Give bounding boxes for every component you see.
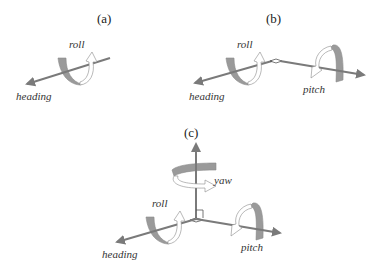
pitch-ribbon-icon	[250, 203, 263, 240]
pitch-label: pitch	[302, 83, 325, 95]
heading-label: heading	[189, 90, 225, 102]
panel-b: (b) roll heading pitch	[189, 11, 364, 102]
roll-label: roll	[69, 38, 85, 50]
roll-arrow-icon	[248, 52, 265, 85]
right-angle-marker	[196, 210, 203, 218]
yaw-arrow-icon	[173, 176, 216, 192]
heading-label: heading	[16, 90, 52, 102]
rotation-axes-diagram: (a) roll heading (b) roll heading pitch …	[0, 0, 384, 263]
roll-arrow-icon	[80, 52, 97, 85]
yaw-label: yaw	[213, 174, 232, 186]
pitch-label: pitch	[240, 241, 263, 253]
panel-c: (c) yaw roll heading pitch	[102, 125, 280, 260]
panel-b-label: (b)	[266, 11, 281, 26]
panel-c-label: (c)	[184, 125, 198, 140]
panel-a-label: (a)	[97, 11, 111, 26]
yaw-ribbon-icon	[172, 163, 216, 176]
roll-label: roll	[152, 197, 168, 209]
panel-a: (a) roll heading	[16, 11, 111, 102]
pitch-arrow-icon	[311, 46, 332, 78]
pitch-arrow-icon	[231, 204, 252, 236]
pitch-ribbon-icon	[330, 45, 343, 82]
pitch-axis-arrow	[280, 61, 364, 75]
heading-label: heading	[102, 248, 138, 260]
roll-label: roll	[237, 38, 253, 50]
roll-arrow-icon	[168, 211, 185, 244]
